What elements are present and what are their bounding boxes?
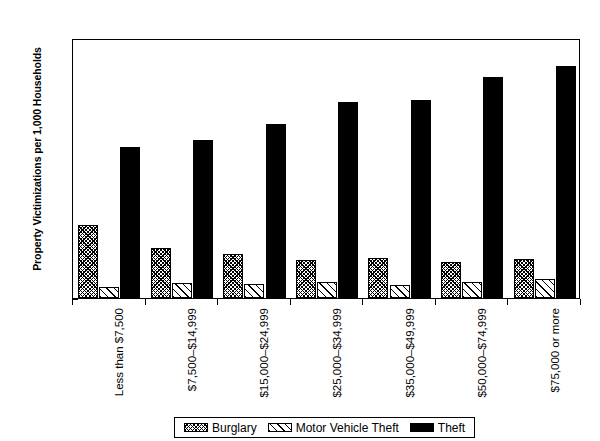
bar-mvt [390, 285, 410, 298]
bar-mvt [99, 287, 119, 298]
legend-item: Burglary [184, 422, 257, 434]
x-tick [145, 299, 146, 305]
x-tick [72, 299, 73, 305]
x-tick [435, 299, 436, 305]
bar-mvt [244, 284, 264, 298]
bar-burglary [368, 258, 388, 298]
bar-theft [266, 124, 286, 298]
legend-swatch-burglary [184, 423, 208, 432]
legend-item: Theft [410, 422, 465, 434]
bar-burglary [151, 248, 171, 298]
legend-swatch-theft [410, 423, 434, 432]
bar-burglary [296, 260, 316, 298]
x-tick-label: Less than $7,500 [114, 306, 126, 436]
bar-theft [338, 102, 358, 298]
bar-mvt [317, 282, 337, 298]
bar-burglary [514, 259, 534, 298]
bar-mvt [172, 283, 192, 298]
bar-mvt [535, 279, 555, 298]
legend-label: Motor Vehicle Theft [296, 422, 399, 434]
x-tick-label: $50,000–$74,999 [477, 306, 489, 436]
x-tick [580, 299, 581, 305]
legend-item: Motor Vehicle Theft [268, 422, 399, 434]
bar-burglary [223, 254, 243, 298]
x-tick-label: $75,000 or more [550, 306, 562, 436]
legend-swatch-mvt [268, 423, 292, 432]
bar-theft [556, 66, 576, 299]
x-tick [217, 299, 218, 305]
bar-mvt [462, 282, 482, 298]
x-tick [290, 299, 291, 305]
x-tick [362, 299, 363, 305]
chart-legend: BurglaryMotor Vehicle TheftTheft [174, 417, 475, 438]
plot-area [72, 39, 580, 299]
chart-figure: Property Victimizations per 1,000 Househ… [0, 0, 600, 441]
legend-label: Theft [438, 422, 465, 434]
legend-label: Burglary [212, 422, 257, 434]
bar-theft [193, 140, 213, 298]
bar-theft [411, 100, 431, 298]
y-axis-title: Property Victimizations per 1,000 Househ… [31, 19, 43, 299]
bar-burglary [78, 225, 98, 298]
x-tick [507, 299, 508, 305]
bar-burglary [441, 262, 461, 298]
bar-theft [483, 77, 503, 298]
bar-theft [120, 147, 140, 298]
